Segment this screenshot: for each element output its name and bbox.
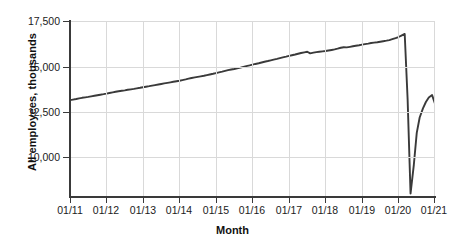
y-tick-label-12500: 12,500 bbox=[14, 106, 60, 118]
gridline-x-2013 bbox=[143, 21, 144, 197]
x-tick-2017 bbox=[289, 197, 290, 203]
x-tick-2015 bbox=[216, 197, 217, 203]
x-tick-2021 bbox=[434, 197, 435, 203]
y-tick-label-17500: 17,500 bbox=[14, 15, 60, 27]
y-tick-10000 bbox=[63, 157, 70, 158]
x-tick-2012 bbox=[106, 197, 107, 203]
gridline-x-2019 bbox=[362, 21, 363, 197]
gridline-x-2017 bbox=[289, 21, 290, 197]
y-tick-label-15000: 15,000 bbox=[14, 61, 60, 73]
employment-line-chart: All employees, thousands 17,500 15,000 1… bbox=[0, 0, 465, 243]
y-tick-12500 bbox=[63, 112, 70, 113]
x-tick-label-2021: 01/21 bbox=[411, 204, 457, 216]
y-tick-15000 bbox=[63, 67, 70, 68]
x-tick-2011 bbox=[70, 197, 71, 203]
gridline-x-2016 bbox=[252, 21, 253, 197]
x-tick-2014 bbox=[179, 197, 180, 203]
x-tick-2020 bbox=[398, 197, 399, 203]
x-tick-2013 bbox=[143, 197, 144, 203]
gridline-x-2014 bbox=[179, 21, 180, 197]
plot-area bbox=[70, 21, 435, 197]
x-tick-2018 bbox=[325, 197, 326, 203]
x-axis-title: Month bbox=[0, 224, 465, 236]
y-tick-label-10000: 10,000 bbox=[14, 151, 60, 163]
y-axis-title: All employees, thousands bbox=[26, 7, 38, 197]
gridline-x-2015 bbox=[216, 21, 217, 197]
y-axis-spine bbox=[69, 20, 71, 198]
y-tick-17500 bbox=[63, 21, 70, 22]
gridline-x-2020 bbox=[398, 21, 399, 197]
x-tick-2016 bbox=[252, 197, 253, 203]
gridline-x-2021 bbox=[434, 21, 435, 197]
x-tick-2019 bbox=[362, 197, 363, 203]
gridline-x-2012 bbox=[106, 21, 107, 197]
gridline-x-2018 bbox=[325, 21, 326, 197]
